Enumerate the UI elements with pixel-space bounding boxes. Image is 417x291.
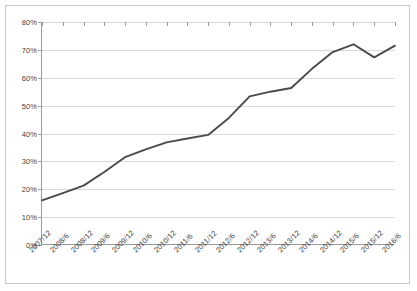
x-axis-tick	[395, 22, 396, 26]
data-series-line	[42, 22, 395, 245]
y-axis-tick-label: 50%	[3, 101, 37, 110]
y-axis-tick-label: 20%	[3, 185, 37, 194]
y-axis-tick-label: 10%	[3, 213, 37, 222]
y-axis-labels: 80% 70% 60% 50% 40% 30% 20% 10% 0%	[0, 22, 41, 245]
plot-area	[41, 22, 394, 245]
x-axis-labels: 2007/122008/62008/122009/62009/122010/62…	[41, 248, 411, 291]
y-axis-tick-label: 40%	[3, 129, 37, 138]
y-axis-tick-label: 80%	[3, 18, 37, 27]
y-axis-tick-label: 30%	[3, 157, 37, 166]
chart-container: 80% 70% 60% 50% 40% 30% 20% 10% 0% 2007/…	[0, 0, 417, 291]
y-axis-tick-label: 70%	[3, 45, 37, 54]
y-axis-tick-label: 60%	[3, 73, 37, 82]
